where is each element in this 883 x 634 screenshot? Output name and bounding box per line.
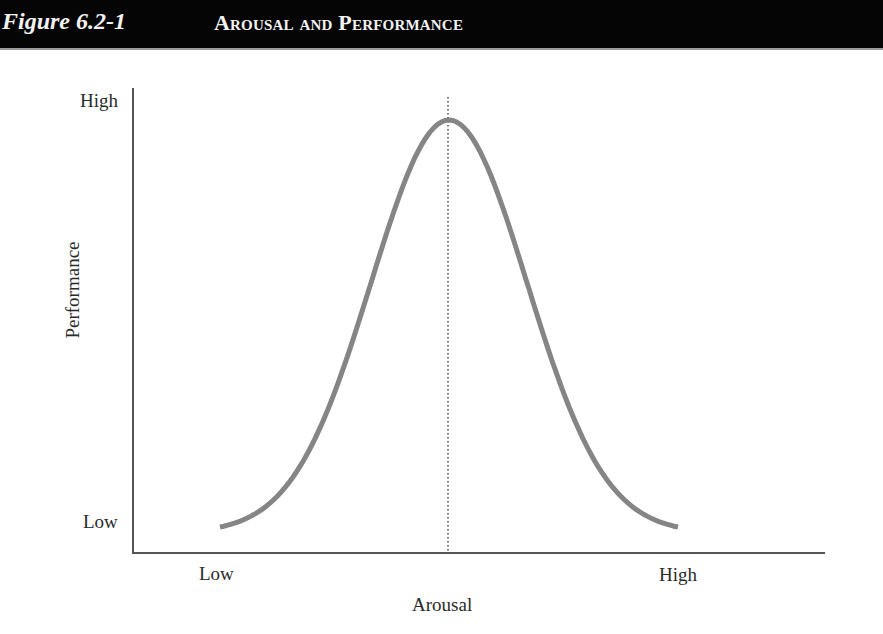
x-tick-high: High: [659, 564, 697, 586]
y-axis-title: Performance: [62, 210, 84, 370]
chart-area: [0, 0, 883, 634]
y-tick-high: High: [80, 90, 118, 112]
performance-curve: [220, 120, 678, 527]
y-tick-low: Low: [83, 511, 118, 533]
x-axis-title: Arousal: [412, 594, 472, 616]
x-tick-low: Low: [199, 563, 234, 585]
